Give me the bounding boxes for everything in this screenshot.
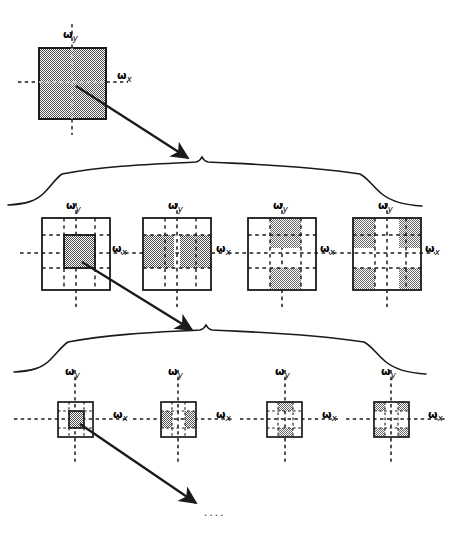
axis-label-omega-y-l1-p2: ωy <box>273 196 288 212</box>
cell-shaded-l2-p3-c20 <box>398 402 409 411</box>
panel-l2-p0 <box>14 370 128 465</box>
axis-label-omega-y-l1-p1: ωy <box>168 196 183 212</box>
panel-l1-p3 <box>333 203 435 307</box>
cell-shaded-l1-p1-c01 <box>143 235 174 268</box>
axis-label-omega-y-l1-p0: ωy <box>66 196 81 212</box>
axis-label-omega-x-l1-p3: ωx <box>425 239 440 255</box>
axis-label-omega-x-l0-p0: ωx <box>117 66 132 82</box>
axis-label-omega-x-l2-p0: ωx <box>113 405 128 421</box>
axis-label-omega-x-l1-p0: ωx <box>112 239 127 255</box>
cell-shaded-l1-p3-c20 <box>399 218 421 248</box>
cell-shaded-l1-p2-c12 <box>270 268 301 290</box>
panel-l1-p0 <box>20 203 122 307</box>
axis-label-omega-y-l2-p2: ωy <box>275 362 290 378</box>
axis-label-omega-y-l2-p0: ωy <box>65 362 80 378</box>
axis-label-omega-y-l2-p1: ωy <box>168 362 183 378</box>
arrow-1 <box>76 86 188 158</box>
continuation-ellipsis: .... <box>204 507 226 518</box>
cell-shaded-l2-p3-c02 <box>374 428 385 437</box>
axis-label-omega-x-l2-p1: ωx <box>216 405 231 421</box>
cell-shaded-l2-p3-c00 <box>374 402 385 411</box>
panel-l1-p1 <box>125 203 226 307</box>
cell-shaded-l2-p3-c22 <box>398 428 409 437</box>
axis-label-omega-x-l2-p2: ωx <box>322 405 337 421</box>
cell-shaded-l1-p0-c11 <box>64 235 95 268</box>
cell-shaded-l2-p1-c21 <box>185 411 196 428</box>
cell-shaded-l1-p3-c02 <box>353 268 375 290</box>
cell-shaded-l1-p2-c10 <box>270 218 301 248</box>
cell-shaded-l2-p2-c10 <box>278 402 293 411</box>
figure-canvas: ωy ωx ωy ωx ωy ωx ωy ωx ωy ωx ωy ωx ωy ω… <box>0 0 458 539</box>
cell-shaded-l1-p3-c00 <box>353 218 375 248</box>
diagram-vector-layer <box>0 0 458 539</box>
arrow-3 <box>80 424 196 503</box>
cell-shaded-l1-p3-c22 <box>399 268 421 290</box>
axis-label-omega-x-l1-p1: ωx <box>216 239 231 255</box>
cell-shaded-l2-p1-c01 <box>161 411 172 428</box>
arrow-2 <box>82 262 192 330</box>
panel-l1-p2 <box>228 203 330 307</box>
axis-label-omega-y-l1-p3: ωy <box>378 196 393 212</box>
axis-label-omega-x-l1-p2: ωx <box>320 239 335 255</box>
axis-label-omega-y-l0-p0: ωy <box>63 25 78 41</box>
cell-shaded-l2-p2-c12 <box>278 428 293 437</box>
axis-label-omega-x-l2-p3: ωx <box>428 405 443 421</box>
axis-label-omega-y-l2-p3: ωy <box>381 362 396 378</box>
